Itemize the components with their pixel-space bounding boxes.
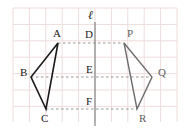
vertex-label-p: P bbox=[127, 27, 133, 39]
vertex-label-a: A bbox=[53, 27, 61, 39]
triangle-preimage bbox=[31, 43, 58, 109]
vertex-label-c: C bbox=[41, 112, 48, 124]
midpoint-label-d: D bbox=[85, 28, 93, 40]
reflection-figure: ABCPQRDEFℓ bbox=[0, 0, 186, 138]
vertex-label-b: B bbox=[20, 66, 27, 78]
midpoint-label-e: E bbox=[86, 63, 93, 75]
midpoint-label-f: F bbox=[86, 95, 92, 107]
diagram-canvas: ABCPQRDEFℓ bbox=[0, 0, 186, 138]
vertex-label-r: R bbox=[139, 112, 147, 124]
mirror-line-label: ℓ bbox=[88, 8, 93, 22]
vertex-label-q: Q bbox=[158, 66, 166, 78]
